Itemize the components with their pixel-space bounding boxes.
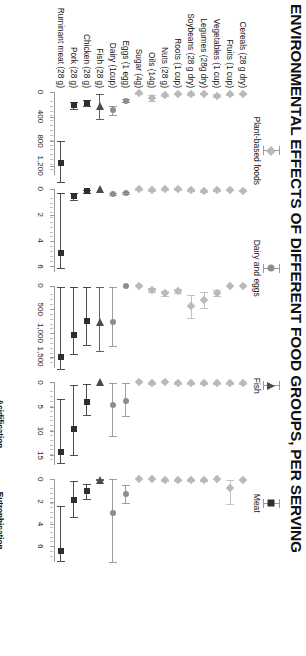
- minor-tick: [50, 232, 53, 233]
- legend-error-bar: [263, 268, 280, 269]
- minor-tick: [50, 391, 53, 392]
- minor-tick: [50, 401, 53, 402]
- square-data-marker: [71, 426, 77, 432]
- error-bar-cap: [226, 504, 234, 505]
- diamond-data-marker: [213, 475, 221, 483]
- minor-tick: [50, 261, 53, 262]
- error-bar-cap: [122, 503, 130, 504]
- diamond-data-marker: [226, 483, 234, 491]
- diamond-data-marker: [174, 476, 182, 484]
- minor-tick: [50, 324, 53, 325]
- circle-data-marker: [110, 319, 116, 325]
- axis-title: Acidificationpotential(g SO₂-eq/serving): [0, 382, 4, 465]
- triangle-marker-icon: [268, 382, 276, 390]
- minor-tick: [50, 512, 53, 513]
- square-data-marker: [84, 188, 90, 194]
- legend-error-bar: [263, 150, 280, 151]
- error-bar-cap: [109, 562, 117, 563]
- category-label: Fish (28 g): [95, 48, 105, 88]
- error-bar-cap: [57, 506, 65, 507]
- circle-data-marker: [110, 402, 116, 408]
- error-bar-cap: [122, 416, 130, 417]
- x-axis-tick: [50, 431, 54, 432]
- minor-tick: [50, 541, 53, 542]
- x-axis-tick: [50, 407, 54, 408]
- diamond-data-marker: [239, 475, 247, 483]
- diamond-data-marker: [200, 186, 208, 194]
- minor-tick: [50, 125, 53, 126]
- error-bar-cap: [109, 115, 117, 116]
- error-bar-cap: [70, 354, 78, 355]
- category-label: Sugar (4g): [134, 49, 144, 88]
- minor-tick: [50, 299, 53, 300]
- triangle-data-marker: [96, 378, 104, 386]
- x-axis-tick: [50, 215, 54, 216]
- square-data-marker: [58, 548, 64, 554]
- error-bar-cap: [109, 287, 117, 288]
- x-axis-tick: [50, 524, 54, 525]
- diamond-marker-icon: [267, 146, 277, 156]
- rotated-figure-wrapper: ENVIRONMENTAL EFFECTS OF DIFFERENT FOOD …: [0, 0, 306, 656]
- error-bar-cap: [57, 141, 65, 142]
- diamond-data-marker: [226, 379, 234, 387]
- legend: Plant-based foodsDairy and eggsFishMeat: [250, 92, 280, 562]
- error-bar-cap: [226, 480, 234, 481]
- category-label: Chicken (28 g): [82, 34, 92, 88]
- x-axis-tick-label: 0: [36, 477, 45, 481]
- error-bar-cap: [57, 561, 65, 562]
- diamond-data-marker: [135, 475, 143, 483]
- circle-data-marker: [110, 107, 116, 113]
- x-axis-tick-label: 0: [36, 380, 45, 384]
- category-axis-labels: Ruminant meat (28 g)Pork (28 g)Chicken (…: [22, 0, 250, 92]
- category-label: Fruits (1 cup): [225, 39, 235, 88]
- diamond-data-marker: [239, 281, 247, 289]
- diamond-data-marker: [226, 186, 234, 194]
- minor-tick: [50, 130, 53, 131]
- square-data-marker: [71, 193, 77, 199]
- x-axis-tick-label: 0: [36, 187, 45, 191]
- error-bar-cap: [96, 119, 104, 120]
- axis-title: Eutrophicationpotential(g PO₄-eq/serving…: [0, 479, 4, 562]
- minor-tick: [50, 149, 53, 150]
- error-bar-cap: [57, 369, 65, 370]
- minor-tick: [50, 551, 53, 552]
- minor-tick: [50, 532, 53, 533]
- diamond-data-marker: [239, 186, 247, 194]
- minor-tick: [50, 207, 53, 208]
- error-bar-cap: [96, 94, 104, 95]
- plot-area: 0246: [54, 479, 250, 562]
- error-bar-cap: [70, 287, 78, 288]
- error-bar-cap: [70, 109, 78, 110]
- minor-tick: [50, 537, 53, 538]
- category-label: Legumes (28g dry): [199, 18, 209, 88]
- error-bar-cap: [57, 399, 65, 400]
- x-axis-line: [54, 286, 55, 369]
- x-axis-tick-label: 5: [36, 405, 45, 409]
- error-bar: [112, 287, 113, 346]
- square-data-marker: [71, 497, 77, 503]
- category-label: Pork (28 g): [69, 47, 79, 88]
- minor-tick: [50, 338, 53, 339]
- diamond-data-marker: [135, 185, 143, 193]
- x-axis-tick: [50, 286, 54, 287]
- panel-container: 04008001,200Greenhouse gases(g CO₂-eq/se…: [22, 92, 250, 562]
- error-bar-cap: [70, 481, 78, 482]
- circle-data-marker: [110, 510, 116, 516]
- diamond-data-marker: [148, 475, 156, 483]
- diamond-data-marker: [148, 186, 156, 194]
- error-bar-cap: [83, 384, 91, 385]
- minor-tick: [50, 120, 53, 121]
- circle-data-marker: [123, 190, 129, 196]
- panel-greenhouse-gases: 04008001,200Greenhouse gases(g CO₂-eq/se…: [22, 92, 250, 175]
- minor-tick: [50, 154, 53, 155]
- x-axis-tick-label: 6: [36, 544, 45, 548]
- x-axis-line: [54, 382, 55, 465]
- legend-label: Dairy and eggs: [252, 210, 262, 328]
- category-label: Nuts (28 g): [160, 47, 170, 88]
- minor-tick: [50, 217, 53, 218]
- minor-tick: [50, 440, 53, 441]
- panel-acidification-potential: 051015Acidificationpotential(g SO₂-eq/se…: [22, 382, 250, 465]
- figure: ENVIRONMENTAL EFFECTS OF DIFFERENT FOOD …: [0, 0, 306, 656]
- square-data-marker: [84, 488, 90, 494]
- minor-tick: [50, 227, 53, 228]
